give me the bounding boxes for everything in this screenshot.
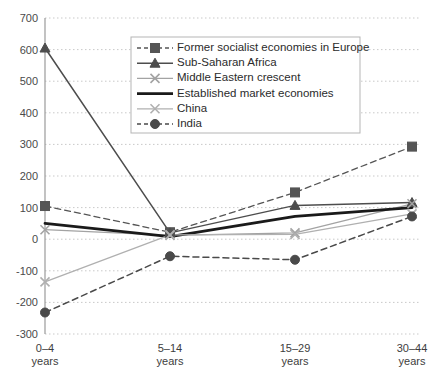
- legend-marker-circle: [151, 120, 160, 129]
- y-tick-label: 300: [20, 138, 38, 150]
- legend-marker-square: [151, 44, 160, 53]
- chart-legend: Former socialist economies in EuropeSub-…: [131, 37, 369, 133]
- chart-canvas: 7006005004003002001000-100-200-300 0–4ye…: [0, 0, 432, 378]
- y-tick-label: 100: [20, 202, 38, 214]
- legend-label: China: [177, 102, 208, 114]
- x-tick-label: 15–29years: [280, 342, 311, 367]
- legend-label: India: [177, 117, 203, 129]
- y-tick-label: 0: [32, 233, 38, 245]
- y-tick-label: 200: [20, 170, 38, 182]
- data-point-marker: [291, 255, 300, 264]
- x-tick-label: 5–14years: [157, 342, 184, 367]
- data-point-marker: [291, 188, 300, 197]
- x-tick-label: 0–4years: [32, 342, 59, 367]
- series-line: [45, 214, 412, 282]
- legend-label: Sub-Saharan Africa: [177, 56, 277, 68]
- line-chart: 7006005004003002001000-100-200-300 0–4ye…: [0, 0, 432, 378]
- y-tick-label: 500: [20, 75, 38, 87]
- data-point-marker: [41, 308, 50, 317]
- legend-label: Established market economies: [177, 87, 334, 99]
- x-tick-label: 30–44years: [397, 342, 428, 367]
- y-tick-label: 400: [20, 107, 38, 119]
- data-point-marker: [408, 142, 417, 151]
- x-tick-labels: 0–4years5–14years15–29years30–44years: [32, 342, 428, 367]
- data-point-marker: [408, 212, 417, 221]
- y-tick-label: 700: [20, 12, 38, 24]
- series-line: [45, 216, 412, 312]
- y-tick-label: -100: [16, 265, 38, 277]
- legend-label: Former socialist economies in Europe: [177, 41, 369, 53]
- data-point-marker: [166, 252, 175, 261]
- y-tick-label: 600: [20, 44, 38, 56]
- data-point-marker: [40, 43, 50, 52]
- data-point-marker: [41, 202, 50, 211]
- y-tick-label: -200: [16, 296, 38, 308]
- legend-label: Middle Eastern crescent: [177, 71, 301, 83]
- y-tick-label: -300: [16, 328, 38, 340]
- y-tick-labels: 7006005004003002001000-100-200-300: [16, 12, 38, 340]
